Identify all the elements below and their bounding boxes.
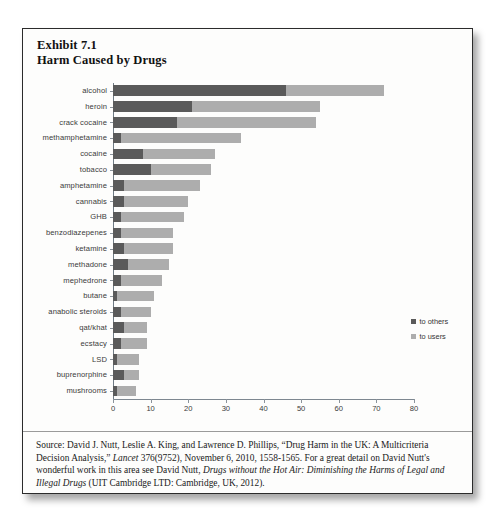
bar-segment	[113, 117, 177, 128]
legend-item-to-users: to users	[411, 332, 448, 341]
bar-row: buprenorphine	[113, 367, 414, 383]
category-label: mushrooms	[66, 383, 107, 399]
bar-segment	[113, 259, 128, 270]
legend-label-to-users: to users	[420, 332, 446, 341]
bar-row: heroin	[113, 99, 414, 115]
category-label: cannabis	[76, 194, 107, 210]
x-axis-tick	[376, 399, 377, 403]
x-axis-tick-label: 70	[372, 404, 380, 413]
source-note: Source: David J. Nutt, Leslie A. King, a…	[23, 435, 472, 489]
bar-segment	[113, 212, 121, 223]
bar-segment	[124, 196, 188, 207]
bar-segment	[117, 291, 155, 302]
source-title-italic: Lancet	[113, 453, 139, 463]
bar-row: crack cocaine	[113, 115, 414, 131]
bar-row: anabolic steroids	[113, 304, 414, 320]
bar-segment	[286, 85, 384, 96]
bar-segment	[113, 370, 124, 381]
bar-segment	[124, 322, 147, 333]
bar-segment	[113, 322, 124, 333]
bar-segment	[113, 338, 121, 349]
bar-segment	[113, 228, 121, 239]
bar-segment	[143, 149, 214, 160]
chart-legend: to others to users	[411, 317, 448, 347]
x-axis-tick-label: 50	[297, 404, 305, 413]
x-axis-tick	[113, 399, 114, 403]
bar-row: benzodiazepenes	[113, 225, 414, 241]
bar-segment	[128, 259, 169, 270]
bar-segment	[121, 133, 241, 144]
bar-segment	[113, 149, 143, 160]
category-label: ecstacy	[81, 336, 107, 352]
bar-segment	[113, 196, 124, 207]
legend-label-to-others: to others	[420, 317, 449, 326]
bar-segment	[121, 338, 147, 349]
exhibit-card: Exhibit 7.1 Harm Caused by Drugs alcohol…	[22, 28, 473, 494]
bar-segment	[121, 212, 185, 223]
bar-row: mephedrone	[113, 273, 414, 289]
bar-row: LSD	[113, 352, 414, 368]
bar-segment	[113, 180, 124, 191]
bar-row: mushrooms	[113, 383, 414, 399]
bar-segment	[117, 386, 136, 397]
x-axis-tick	[339, 399, 340, 403]
source-text: (UIT Cambridge LTD: Cambridge, UK, 2012)…	[86, 478, 264, 488]
category-label: butane	[83, 288, 107, 304]
exhibit-number: Exhibit 7.1	[37, 38, 472, 53]
category-label: anabolic steroids	[48, 304, 107, 320]
bar-segment	[113, 133, 121, 144]
category-label: heroin	[85, 99, 107, 115]
bar-row: qat/khat	[113, 320, 414, 336]
category-label: cocaine	[80, 146, 107, 162]
bar-row: alcohol	[113, 83, 414, 99]
x-axis-tick-label: 40	[259, 404, 267, 413]
category-label: benzodiazepenes	[46, 225, 107, 241]
x-axis-tick	[414, 399, 415, 403]
bar-row: cannabis	[113, 194, 414, 210]
bar-row: butane	[113, 288, 414, 304]
bar-segment	[124, 370, 139, 381]
legend-swatch-to-others	[411, 319, 416, 324]
category-label: crack cocaine	[59, 115, 107, 131]
x-axis-tick-label: 30	[222, 404, 230, 413]
legend-swatch-to-users	[411, 334, 416, 339]
bar-row: cocaine	[113, 146, 414, 162]
source-divider	[23, 431, 472, 432]
bar-segment	[113, 85, 286, 96]
bar-row: methadone	[113, 257, 414, 273]
category-label: tobacco	[80, 162, 107, 178]
bar-segment	[124, 180, 199, 191]
bar-segment	[113, 275, 121, 286]
category-label: GHB	[90, 209, 107, 225]
bar-row: GHB	[113, 209, 414, 225]
bar-segment	[113, 243, 124, 254]
x-axis-tick	[226, 399, 227, 403]
x-axis-tick-label: 20	[184, 404, 192, 413]
bar-row: ecstacy	[113, 336, 414, 352]
x-axis-tick-label: 10	[146, 404, 154, 413]
category-label: LSD	[92, 352, 107, 368]
bar-segment	[121, 307, 151, 318]
legend-item-to-others: to others	[411, 317, 448, 326]
bar-segment	[192, 101, 320, 112]
bar-segment	[117, 354, 140, 365]
bar-row: tobacco	[113, 162, 414, 178]
bar-segment	[113, 307, 121, 318]
category-label: amphetamine	[60, 178, 107, 194]
bar-segment	[113, 164, 151, 175]
category-label: methadone	[68, 257, 107, 273]
x-axis-tick	[301, 399, 302, 403]
exhibit-title-block: Exhibit 7.1 Harm Caused by Drugs	[23, 29, 472, 71]
category-label: buprenorphine	[57, 367, 107, 383]
x-axis-tick-label: 0	[111, 404, 115, 413]
category-label: mephedrone	[63, 273, 107, 289]
bar-segment	[121, 228, 174, 239]
bar-segment	[151, 164, 211, 175]
bar-row: ketamine	[113, 241, 414, 257]
bar-row: amphetamine	[113, 178, 414, 194]
x-axis-tick	[264, 399, 265, 403]
bar-segment	[113, 101, 192, 112]
x-axis-tick-label: 60	[335, 404, 343, 413]
x-axis-tick	[151, 399, 152, 403]
x-axis-tick	[188, 399, 189, 403]
